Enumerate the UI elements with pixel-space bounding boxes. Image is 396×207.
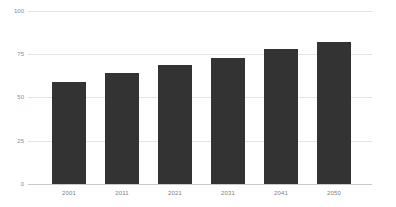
axis-baseline-0 xyxy=(28,184,372,185)
x-axis-tick-label-2050: 2050 xyxy=(317,190,351,196)
x-axis-tick-label-2041: 2041 xyxy=(264,190,298,196)
y-axis-tick-label-50: 50 xyxy=(2,94,24,100)
y-axis-tick-label-0: 0 xyxy=(2,181,24,187)
bar-2001[interactable] xyxy=(52,82,86,184)
bar-2011[interactable] xyxy=(105,73,139,184)
x-axis-tick-label-2021: 2021 xyxy=(158,190,192,196)
y-axis-tick-label-25: 25 xyxy=(2,138,24,144)
bar-2041[interactable] xyxy=(264,49,298,184)
gridline-100 xyxy=(28,11,372,12)
x-axis-tick-label-2001: 2001 xyxy=(52,190,86,196)
x-axis-tick-label-2031: 2031 xyxy=(211,190,245,196)
bar-2031[interactable] xyxy=(211,58,245,184)
x-axis-tick-label-2011: 2011 xyxy=(105,190,139,196)
y-axis-tick-label-75: 75 xyxy=(2,51,24,57)
bar-2021[interactable] xyxy=(158,65,192,184)
bar-2050[interactable] xyxy=(317,42,351,184)
bar-chart: 100 75 50 25 0 2001 2011 2021 2031 2041 … xyxy=(0,0,396,207)
y-axis-tick-label-100: 100 xyxy=(2,8,24,14)
